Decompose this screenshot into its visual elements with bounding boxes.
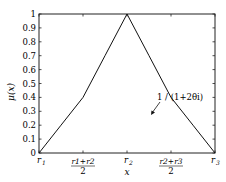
annotation-label: 1 / (1+2θi) [157, 92, 203, 102]
membership-curve [39, 14, 215, 153]
svg-text:r1+r2: r1+r2 [72, 157, 95, 166]
svg-text:2: 2 [168, 166, 173, 176]
y-tick-label: 0.4 [22, 92, 36, 102]
svg-text:2: 2 [128, 159, 133, 166]
axes-frame [39, 14, 215, 153]
y-tick-label: 0.9 [22, 23, 36, 33]
xtick-mid1: r1+r2 2 [71, 157, 95, 176]
y-tick-label: 0.5 [22, 79, 36, 89]
x-axis-label: x [124, 167, 129, 177]
svg-text:r2+r3: r2+r3 [160, 157, 183, 166]
y-tick-label: 0.8 [22, 37, 36, 47]
y-tick-label: 0.6 [22, 65, 36, 75]
annotation-arrow [152, 102, 160, 113]
y-tick-label: 1 [31, 9, 36, 19]
y-tick-label: 0.2 [22, 120, 36, 130]
svg-text:2: 2 [80, 166, 85, 176]
y-tick-label: 0 [31, 148, 36, 158]
x-axis-ticks [39, 14, 215, 153]
xtick-r2: r 2 [124, 155, 133, 166]
y-tick-label: 0.3 [22, 106, 36, 116]
chart-svg: 00.10.20.30.40.50.60.70.80.91 1 / (1+2θi… [0, 0, 226, 182]
xtick-mid2: r2+r3 2 [159, 157, 183, 176]
xtick-r3: r 3 [211, 155, 220, 166]
svg-text:1: 1 [42, 159, 46, 166]
y-axis-label: μ(x) [6, 83, 16, 101]
y-tick-label: 0.1 [22, 134, 36, 144]
y-tick-label: 0.7 [22, 51, 36, 61]
y-axis-ticks: 00.10.20.30.40.50.60.70.80.91 [22, 9, 215, 158]
xtick-r1: r 1 [37, 155, 46, 166]
svg-text:3: 3 [216, 159, 220, 166]
